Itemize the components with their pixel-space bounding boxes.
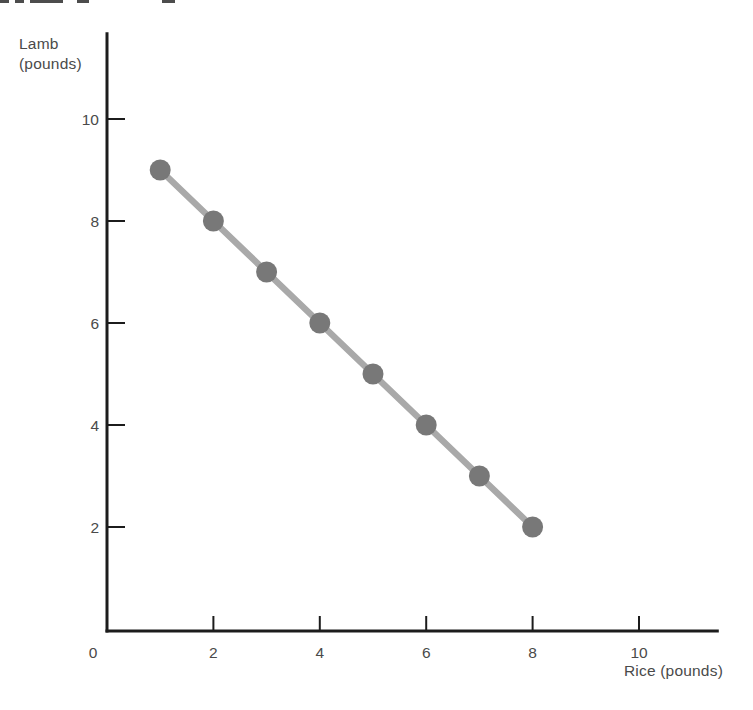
- x-tick-label: 6: [422, 644, 431, 661]
- x-axis-title: Rice (pounds): [624, 661, 723, 681]
- chart-canvas: 2468100246810: [0, 0, 753, 710]
- x-tick-label: 2: [209, 644, 218, 661]
- y-tick-label: 2: [90, 519, 99, 536]
- data-point: [416, 415, 437, 436]
- y-tick-label: 8: [90, 213, 99, 230]
- data-point: [469, 466, 490, 487]
- data-point: [203, 211, 224, 232]
- y-tick-label: 4: [90, 417, 99, 434]
- y-axis-title-line2: (pounds): [19, 54, 82, 74]
- data-point: [150, 160, 171, 181]
- data-point: [309, 313, 330, 334]
- y-tick-label: 10: [82, 111, 100, 128]
- data-point: [522, 517, 543, 538]
- economics-line-chart-figure: 2468100246810 Lamb (pounds) Rice (pounds…: [0, 0, 753, 710]
- y-tick-label: 6: [90, 315, 99, 332]
- x-tick-label: 8: [528, 644, 537, 661]
- data-point: [363, 364, 384, 385]
- y-axis-title-line1: Lamb: [19, 34, 82, 54]
- data-point: [256, 262, 277, 283]
- y-axis-title: Lamb (pounds): [19, 34, 82, 74]
- x-tick-label: 10: [630, 644, 648, 661]
- origin-label: 0: [89, 644, 98, 661]
- x-tick-label: 4: [315, 644, 324, 661]
